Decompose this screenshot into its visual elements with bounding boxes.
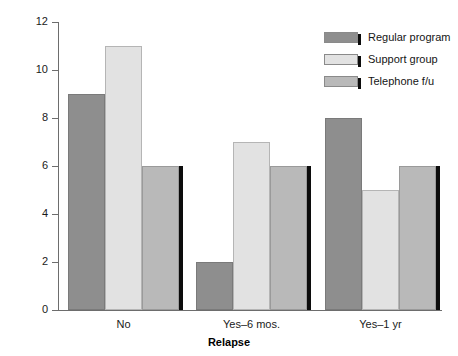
y-axis-tick-label: 6 <box>22 160 48 171</box>
x-axis-tick-label: Yes–1 yr <box>321 318 441 330</box>
legend-swatch-shadow <box>358 34 361 45</box>
y-axis-tick <box>52 118 58 119</box>
legend: Regular programSupport groupTelephone f/… <box>324 30 454 96</box>
legend-label: Regular program <box>368 31 451 43</box>
x-axis-tick-label: No <box>64 318 184 330</box>
legend-label: Support group <box>368 53 438 65</box>
x-axis-title: Relapse <box>0 336 458 348</box>
legend-swatch-support-group <box>324 54 358 65</box>
y-axis-tick <box>52 166 58 167</box>
y-axis-tick-label: 12 <box>22 16 48 27</box>
legend-item: Support group <box>324 52 454 70</box>
x-axis-line <box>58 310 442 311</box>
y-axis-tick-label: 4 <box>22 208 48 219</box>
bar <box>233 142 270 310</box>
y-axis-tick <box>52 70 58 71</box>
y-axis-tick-label: 2 <box>22 256 48 267</box>
y-axis-tick-label: 0 <box>22 304 48 315</box>
legend-swatch-shadow <box>358 78 361 89</box>
x-axis-tick-label: Yes–6 mos. <box>192 318 312 330</box>
y-axis-tick-label: 10 <box>22 64 48 75</box>
legend-label: Telephone f/u <box>368 75 434 87</box>
bar-chart: 024681012 Count NoYes–6 mos.Yes–1 yr Rel… <box>0 0 458 356</box>
y-axis-tick <box>52 214 58 215</box>
legend-swatch-shadow <box>358 56 361 67</box>
y-axis-tick-label: 8 <box>22 112 48 123</box>
bar-shadow <box>179 166 183 310</box>
bar <box>105 46 142 310</box>
bar <box>142 166 179 310</box>
bar <box>399 166 436 310</box>
y-axis-tick <box>52 262 58 263</box>
bar <box>68 94 105 310</box>
bar-shadow <box>307 166 311 310</box>
y-axis-tick <box>52 310 58 311</box>
bar <box>196 262 233 310</box>
bar <box>362 190 399 310</box>
legend-item: Regular program <box>324 30 454 48</box>
bar <box>270 166 307 310</box>
bar-shadow <box>436 166 440 310</box>
legend-item: Telephone f/u <box>324 74 454 92</box>
legend-swatch-telephone-fu <box>324 76 358 87</box>
legend-swatch-regular-program <box>324 32 358 43</box>
y-axis-tick <box>52 22 58 23</box>
bar <box>325 118 362 310</box>
